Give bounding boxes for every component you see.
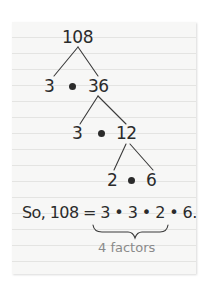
multiply-dot-icon	[69, 83, 76, 90]
equation-prefix: So, 108 =	[22, 203, 96, 222]
multiply-dot-icon	[98, 130, 105, 137]
factor: 2	[155, 203, 165, 222]
factor: 3	[128, 203, 138, 222]
level2-right-factor: 12	[116, 125, 137, 142]
multiply-dot-icon	[128, 177, 135, 184]
multiply-dot-icon: •	[169, 203, 178, 222]
factor: 6	[183, 203, 193, 222]
root-number: 108	[62, 29, 93, 46]
multiply-dot-icon: •	[114, 203, 123, 222]
level2-left-factor: 3	[72, 125, 82, 142]
brace-label: 4 factors	[98, 240, 155, 255]
level1-left-factor: 3	[44, 78, 54, 95]
factorization-equation: So, 108 = 3 • 3 • 2 • 6.	[22, 203, 197, 222]
equation-suffix: .	[192, 203, 197, 222]
level3-right-factor: 6	[146, 172, 156, 189]
factor: 3	[100, 203, 110, 222]
multiply-dot-icon: •	[142, 203, 151, 222]
level1-right-factor: 36	[88, 78, 109, 95]
level3-left-factor: 2	[107, 172, 117, 189]
